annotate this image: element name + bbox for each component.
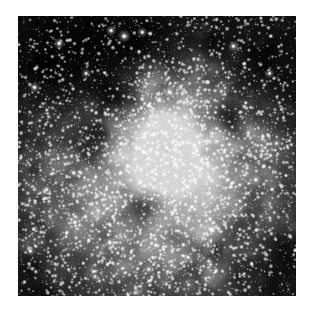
page-root: Star field image grayscale heatmap Surfa…	[0, 0, 312, 311]
sky-canvas	[18, 16, 296, 296]
star-field-image	[18, 16, 296, 296]
